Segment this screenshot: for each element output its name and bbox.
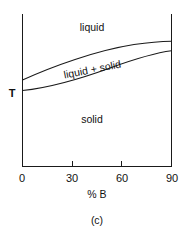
phase-diagram-figure: liquid liquid + solid solid T 0 30 60 90… xyxy=(0,0,194,235)
x-tick-label-60: 60 xyxy=(116,172,128,184)
chart-axes xyxy=(22,14,172,167)
region-label-solid: solid xyxy=(81,113,103,125)
x-axis-tick-labels: 0 30 60 90 xyxy=(19,172,178,184)
x-tick-label-0: 0 xyxy=(19,172,25,184)
x-axis-ticks xyxy=(73,161,122,167)
figure-caption: (c) xyxy=(91,214,103,226)
x-tick-label-90: 90 xyxy=(166,172,178,184)
x-axis-title: % B xyxy=(87,188,106,200)
phase-diagram-chart: liquid liquid + solid solid T 0 30 60 90… xyxy=(0,0,194,235)
x-tick-label-30: 30 xyxy=(66,172,78,184)
y-axis-title: T xyxy=(9,87,16,99)
region-label-liquid: liquid xyxy=(80,21,105,33)
